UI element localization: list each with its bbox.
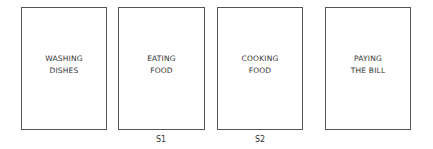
card-line: COOKING [242, 53, 279, 65]
card-text: COOKING FOOD [242, 53, 279, 77]
card-line: DISHES [45, 65, 83, 77]
card-line: FOOD [147, 65, 176, 77]
card-line: WASHING [45, 53, 83, 65]
card-text: EATING FOOD [147, 53, 176, 77]
card-text: PAYING THE BILL [351, 53, 386, 77]
label-s2: S2 [245, 135, 275, 144]
card-paying-the-bill: PAYING THE BILL [325, 7, 411, 130]
card-line: PAYING [351, 53, 386, 65]
card-line: THE BILL [351, 65, 386, 77]
card-line: EATING [147, 53, 176, 65]
card-washing-dishes: WASHING DISHES [21, 7, 107, 130]
card-eating-food: EATING FOOD [118, 7, 205, 130]
card-line: FOOD [242, 65, 279, 77]
card-cooking-food: COOKING FOOD [217, 7, 303, 130]
card-text: WASHING DISHES [45, 53, 83, 77]
label-s1: S1 [146, 135, 176, 144]
